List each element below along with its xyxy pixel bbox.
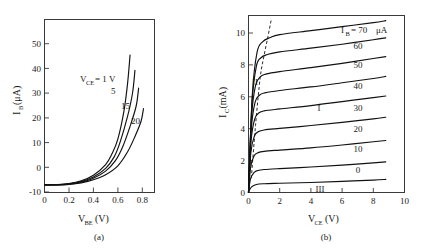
chart-b-label-30: 30 — [354, 103, 364, 113]
chart-b-label-10: 10 — [354, 144, 364, 154]
chart-b-xtick-6: 6 — [340, 196, 345, 206]
chart-b-label-20: 20 — [354, 124, 364, 134]
chart-panel-b: 0 2 4 6 8 10 0 2 4 6 8 10 — [213, 0, 426, 250]
chart-a-x-ticks — [45, 188, 143, 193]
chart-b-xlabel-sub: CE — [315, 219, 323, 226]
chart-b-curve-3 — [249, 76, 386, 192]
chart-b-x-ticks — [249, 188, 405, 193]
chart-a-xtick-0.4: 0.4 — [88, 195, 100, 205]
chart-a-y-ticks — [45, 44, 50, 192]
chart-b-label-50: 50 — [354, 60, 364, 70]
chart-a-xlabel-sub: BE — [85, 219, 93, 226]
chart-b-xtick-8: 8 — [371, 196, 376, 206]
chart-b-ytick-0: 0 — [241, 188, 246, 198]
chart-a-ytick-50: 50 — [32, 39, 42, 49]
chart-a-label-5: 5 — [111, 86, 116, 96]
chart-b-xlabel-unit: (V) — [325, 213, 339, 225]
chart-a-curve-0 — [45, 55, 131, 185]
chart-b-series-header: I B = 70 μA — [341, 25, 388, 37]
chart-b-ytick-2: 2 — [241, 156, 246, 166]
chart-b-ylabel: I C (mA) — [217, 87, 230, 118]
chart-b-svg: 0 2 4 6 8 10 0 2 4 6 8 10 — [213, 0, 426, 250]
chart-b-ylabel-main: I — [217, 115, 228, 118]
chart-panel-a: -10 0 10 20 30 40 50 0 0.2 0.4 0.6 0.8 — [0, 0, 213, 250]
chart-a-ylabel: I B (μA) — [11, 86, 24, 115]
chart-a-label-v-sub: CE — [86, 79, 94, 86]
chart-b-ylabel-unit: (mA) — [217, 87, 229, 109]
chart-a-ytick-40: 40 — [32, 64, 42, 74]
chart-a-plot-frame — [45, 20, 155, 193]
chart-a-xtick-0: 0 — [42, 195, 47, 205]
chart-a-label-20: 20 — [131, 116, 141, 126]
chart-b-label-60: 60 — [354, 41, 364, 51]
chart-a-ytick-0: 0 — [37, 163, 42, 173]
chart-b-xlabel: V CE (V) — [308, 213, 339, 226]
chart-b-header-i-sub: B — [346, 30, 351, 37]
chart-a-ylabel-main: I — [11, 112, 22, 115]
chart-a-xtick-0.8: 0.8 — [137, 195, 149, 205]
chart-b-xtick-0: 0 — [246, 196, 251, 206]
chart-b-xtick-4: 4 — [309, 196, 314, 206]
figure-root: -10 0 10 20 30 40 50 0 0.2 0.4 0.6 0.8 — [0, 0, 426, 250]
chart-a-label-15: 15 — [121, 101, 131, 111]
chart-a-ytick--10: -10 — [29, 187, 41, 197]
chart-b-xtick-10: 10 — [400, 196, 410, 206]
chart-b-region-II: II — [252, 77, 258, 87]
chart-b-label-0: 0 — [356, 165, 361, 175]
chart-b-header-i: I — [341, 25, 344, 35]
chart-a-ytick-10: 10 — [32, 138, 42, 148]
chart-a-xlabel: V BE (V) — [78, 213, 109, 226]
chart-b-region-I: I — [318, 103, 321, 113]
chart-a-xtick-0.6: 0.6 — [112, 195, 124, 205]
chart-b-caption: (b) — [321, 232, 332, 242]
chart-a-curve-label-vce1: V CE = 1 V — [80, 74, 116, 86]
chart-a-curve-1 — [45, 70, 135, 184]
chart-b-header-eq: = 70 — [351, 25, 368, 35]
chart-a-curve-3 — [45, 109, 144, 185]
chart-a-label-v-eq: = 1 V — [95, 74, 116, 84]
chart-b-header-unit: μA — [376, 25, 388, 35]
chart-a-ytick-30: 30 — [32, 88, 42, 98]
chart-a-ylabel-unit: (μA) — [11, 86, 23, 105]
chart-b-region-III: III — [316, 184, 325, 194]
chart-a-svg: -10 0 10 20 30 40 50 0 0.2 0.4 0.6 0.8 — [0, 0, 213, 250]
chart-b-ytick-6: 6 — [241, 92, 246, 102]
chart-b-curve-5 — [249, 117, 386, 192]
chart-b-xtick-2: 2 — [277, 196, 282, 206]
chart-b-saturation-boundary-dashed — [251, 20, 271, 178]
chart-b-ytick-10: 10 — [236, 28, 246, 38]
chart-a-curves — [45, 55, 144, 185]
chart-a-xlabel-unit: (V) — [95, 213, 109, 225]
chart-b-ytick-8: 8 — [241, 60, 246, 70]
chart-a-caption: (a) — [94, 232, 104, 242]
chart-b-label-40: 40 — [354, 81, 364, 91]
chart-a-xtick-0.2: 0.2 — [63, 195, 74, 205]
chart-b-ytick-4: 4 — [241, 124, 246, 134]
chart-a-ytick-20: 20 — [32, 113, 42, 123]
